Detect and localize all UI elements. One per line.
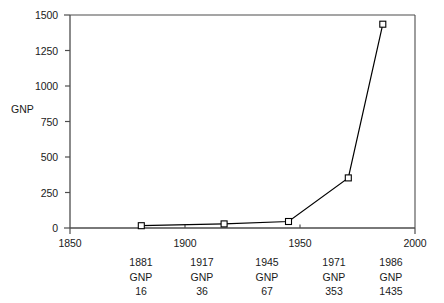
- point-annotation-1986: 1986 GNP 1435: [363, 255, 419, 299]
- data-markers: [138, 21, 385, 229]
- annotation-year: 1881: [113, 255, 169, 270]
- annotation-value: 67: [239, 284, 295, 299]
- point-annotation-1971: 1971 GNP 353: [306, 255, 362, 299]
- y-tick-label-750: 750: [14, 116, 58, 128]
- point-annotation-1881: 1881 GNP 16: [113, 255, 169, 299]
- point-annotation-1945: 1945 GNP 67: [239, 255, 295, 299]
- annotation-label: GNP: [239, 270, 295, 285]
- x-tick-label-1950: 1950: [276, 237, 324, 249]
- x-axis-ticks: [70, 225, 415, 235]
- annotation-year: 1945: [239, 255, 295, 270]
- y-tick-label-1250: 1250: [14, 45, 58, 57]
- gnp-line-chart: 1500 1250 1000 750 500 250 0 GNP 1850 19…: [0, 0, 444, 303]
- data-marker-1881: [138, 223, 144, 229]
- data-marker-1971: [345, 175, 351, 181]
- y-tick-label-1000: 1000: [14, 80, 58, 92]
- y-tick-label-0: 0: [14, 222, 58, 234]
- y-tick-label-250: 250: [14, 187, 58, 199]
- y-axis-title: GNP: [11, 103, 34, 115]
- x-tick-label-2000: 2000: [391, 237, 439, 249]
- point-annotation-1917: 1917 GNP 36: [174, 255, 230, 299]
- annotation-value: 36: [174, 284, 230, 299]
- y-axis-ticks: [64, 15, 70, 228]
- y-tick-label-1500: 1500: [14, 9, 58, 21]
- annotation-label: GNP: [113, 270, 169, 285]
- annotation-year: 1917: [174, 255, 230, 270]
- annotation-year: 1986: [363, 255, 419, 270]
- axis-frame: [70, 15, 415, 228]
- data-marker-1986: [380, 21, 386, 27]
- x-tick-label-1900: 1900: [161, 237, 209, 249]
- annotation-label: GNP: [174, 270, 230, 285]
- annotation-label: GNP: [363, 270, 419, 285]
- annotation-label: GNP: [306, 270, 362, 285]
- x-tick-label-1850: 1850: [46, 237, 94, 249]
- data-marker-1917: [221, 221, 227, 227]
- annotation-value: 1435: [363, 284, 419, 299]
- data-series-gnp: [141, 24, 382, 226]
- annotation-year: 1971: [306, 255, 362, 270]
- y-tick-label-500: 500: [14, 151, 58, 163]
- data-marker-1945: [286, 219, 292, 225]
- annotation-value: 353: [306, 284, 362, 299]
- annotation-value: 16: [113, 284, 169, 299]
